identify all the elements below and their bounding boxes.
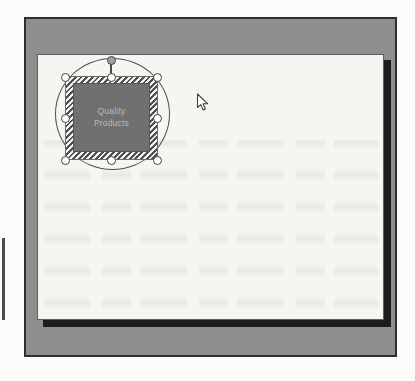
arrow-pointer-icon: [196, 93, 209, 112]
app-window: Quality Products: [24, 17, 397, 357]
slide-canvas[interactable]: Quality Products: [37, 54, 384, 320]
rotation-handle[interactable]: [107, 56, 116, 65]
selection-handle-top-center[interactable]: [107, 73, 116, 82]
selection-handle-bottom-right[interactable]: [153, 156, 162, 165]
shape-text: Quality Products: [87, 106, 137, 129]
selection-handle-middle-left[interactable]: [61, 114, 70, 123]
page-edge-fragment: [2, 238, 5, 320]
selection-handle-middle-right[interactable]: [153, 114, 162, 123]
selection-handle-bottom-center[interactable]: [107, 156, 116, 165]
selection-handle-top-right[interactable]: [153, 73, 162, 82]
scanned-screenshot-page: { "window": { "frame_color": "#8e8e8e", …: [0, 0, 415, 381]
selection-handle-top-left[interactable]: [61, 73, 70, 82]
square-shape[interactable]: Quality Products: [73, 83, 150, 152]
selection-handle-bottom-left[interactable]: [61, 156, 70, 165]
